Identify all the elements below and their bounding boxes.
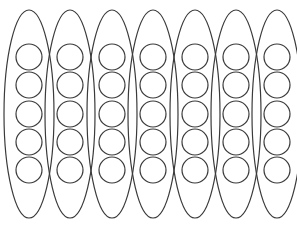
figure-container <box>0 0 297 230</box>
ellipse-grid-figure <box>0 0 297 230</box>
